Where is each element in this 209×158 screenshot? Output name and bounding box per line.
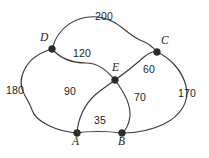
- edge-weight-D-A: 180: [6, 85, 24, 96]
- edge-A-B: [77, 132, 122, 134]
- graph-figure: A B C D E 200 120 60 180 90 70 35 170: [0, 0, 209, 158]
- edge-weight-D-C: 200: [95, 11, 113, 22]
- edge-weight-B-C: 170: [178, 88, 196, 99]
- edge-weight-E-C: 60: [143, 64, 155, 75]
- node-C[interactable]: [154, 49, 161, 56]
- edge-E-B: [115, 80, 130, 133]
- node-D[interactable]: [49, 46, 56, 53]
- edge-weight-E-B: 70: [134, 92, 146, 103]
- node-E[interactable]: [112, 77, 119, 84]
- node-label-D: D: [40, 32, 48, 44]
- edge-weight-A-E: 90: [64, 86, 76, 97]
- node-label-E: E: [112, 62, 119, 74]
- graph-canvas: [0, 0, 209, 158]
- edge-weight-D-E: 120: [73, 48, 91, 59]
- node-label-C: C: [161, 35, 169, 47]
- edge-weight-A-B: 35: [94, 115, 106, 126]
- edge-D-C: [52, 17, 157, 52]
- node-label-A: A: [72, 136, 79, 148]
- node-label-B: B: [118, 136, 125, 148]
